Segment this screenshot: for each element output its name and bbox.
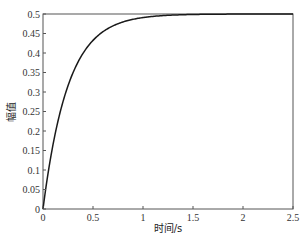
- x-tick-label: 0: [41, 212, 46, 223]
- x-tick-label: 2.5: [287, 212, 300, 223]
- y-tick-label: 0.15: [23, 145, 41, 156]
- y-tick-label: 0.35: [23, 67, 41, 78]
- y-tick-label: 0: [35, 204, 40, 215]
- x-tick-label: 1.5: [187, 212, 200, 223]
- x-axis-title: 时间/s: [154, 222, 183, 234]
- plot-area: [43, 14, 293, 209]
- y-tick-label: 0.1: [28, 165, 41, 176]
- step-response-chart: 00.050.10.150.20.250.30.350.40.450.5 00.…: [0, 0, 304, 241]
- x-tick-label: 2: [241, 212, 246, 223]
- y-tick-label: 0.45: [23, 28, 41, 39]
- x-tick-label: 1: [141, 212, 146, 223]
- plot-frame: [43, 14, 293, 209]
- x-tick-label: 0.5: [87, 212, 100, 223]
- y-tick-label: 0.3: [28, 87, 41, 98]
- y-tick-label: 0.4: [28, 48, 41, 59]
- y-axis-title: 幅值: [5, 102, 17, 122]
- y-tick-label: 0.2: [28, 126, 41, 137]
- y-axis-ticks: 00.050.10.150.20.250.30.350.40.450.5: [23, 9, 47, 215]
- y-tick-label: 0.5: [28, 9, 41, 20]
- y-tick-label: 0.05: [23, 184, 41, 195]
- y-tick-label: 0.25: [23, 106, 41, 117]
